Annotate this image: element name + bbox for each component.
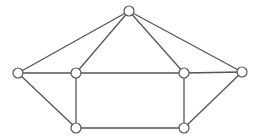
edge-top-right (129, 11, 242, 72)
edge-top-inner-left (76, 11, 129, 73)
node-bottom-left (71, 123, 81, 133)
node-bottom-right (179, 123, 189, 133)
node-top (124, 6, 134, 16)
edge-inner-right-right (184, 72, 242, 73)
node-inner-right (179, 68, 189, 78)
edge-top-inner-right (129, 11, 184, 73)
node-left (13, 68, 23, 78)
edge-left-bottom-left (18, 73, 76, 128)
node-right (237, 67, 247, 77)
node-inner-left (71, 68, 81, 78)
edges-group (18, 11, 242, 128)
edge-top-left (18, 11, 129, 73)
graph-diagram (0, 0, 263, 137)
edge-right-bottom-right (184, 72, 242, 128)
nodes-group (13, 6, 247, 133)
